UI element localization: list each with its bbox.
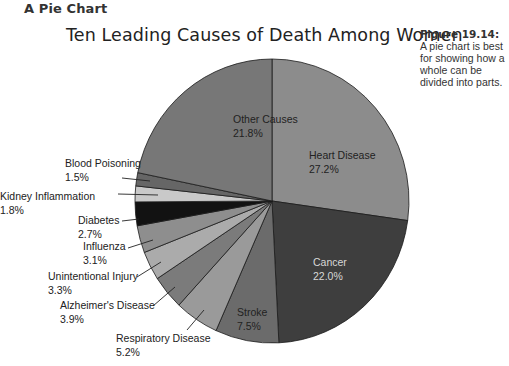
slice-label-value: 1.8% [0,203,95,217]
slice-label-name: Respiratory Disease [116,331,211,345]
slice-label: Blood Poisoning1.5% [65,156,141,184]
slice-label-value: 7.5% [237,319,267,333]
slice-label-name: Kidney Inflammation [0,189,95,203]
slice-label-name: Heart Disease [309,148,376,162]
pie-slices [135,59,409,343]
slice-label: Cancer22.0% [313,255,347,283]
slice-label: Respiratory Disease5.2% [116,331,211,359]
slice-label-value: 21.8% [233,126,298,140]
slice-label-name: Unintentional Injury [48,269,138,283]
slice-label-name: Blood Poisoning [65,156,141,170]
slice-label-value: 27.2% [309,162,376,176]
slice-label: Influenza3.1% [83,239,126,267]
slice-label-value: 3.1% [83,253,126,267]
slice-label-name: Alzheimer's Disease [60,298,155,312]
slice-label-value: 1.5% [65,170,141,184]
slice-label: Other Causes21.8% [233,112,298,140]
slice-label-value: 5.2% [116,345,211,359]
slice-label: Kidney Inflammation1.8% [0,189,95,217]
slice-label-value: 22.0% [313,269,347,283]
slice-label-name: Stroke [237,305,267,319]
slice-label-value: 2.7% [78,227,119,241]
slice-label-name: Cancer [313,255,347,269]
slice-label-name: Influenza [83,239,126,253]
slice-label-name: Other Causes [233,112,298,126]
slice-label-value: 3.3% [48,283,138,297]
slice-label: Stroke7.5% [237,305,267,333]
slice-label: Alzheimer's Disease3.9% [60,298,155,326]
slice-label: Diabetes2.7% [78,213,119,241]
slice-label: Heart Disease27.2% [309,148,376,176]
slice-label: Unintentional Injury3.3% [48,269,138,297]
slice-label-value: 3.9% [60,312,155,326]
